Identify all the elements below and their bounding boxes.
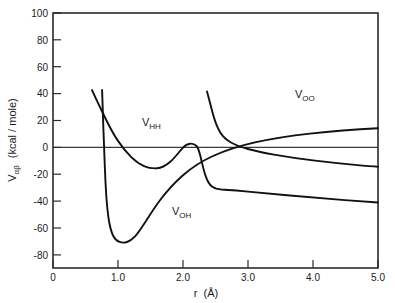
y-tick-label: -40 <box>34 196 49 207</box>
y-axis-title: Vαβ(kcal / mole) <box>6 98 21 181</box>
x-axis-title: r(Å) <box>194 287 218 299</box>
curve-label-voh: VOH <box>172 205 192 220</box>
y-axis-title-subscript: αβ <box>12 165 21 175</box>
y-tick-label: 100 <box>31 8 48 19</box>
x-tick-label: 1.0 <box>111 272 125 283</box>
y-axis-ticks <box>53 13 61 255</box>
x-tick-label: 3.0 <box>241 272 255 283</box>
x-tick-label: 4.0 <box>306 272 320 283</box>
y-axis-title-unit: (kcal / mole) <box>6 98 18 158</box>
curve-label-vhh-subscript: HH <box>149 122 161 131</box>
y-tick-labels: 100 80 60 40 20 0 -20 -40 -60 -80 <box>31 8 48 261</box>
y-tick-label: 20 <box>37 115 49 126</box>
curve-label-voo-subscript: OO <box>302 94 314 103</box>
curve-label-voo: VOO <box>295 88 315 103</box>
y-tick-label: -60 <box>34 223 49 234</box>
x-tick-label: 5.0 <box>371 272 385 283</box>
y-tick-label: 80 <box>37 35 49 46</box>
curve-label-vhh: VHH <box>142 116 161 131</box>
y-tick-label: 60 <box>37 62 49 73</box>
x-tick-label: 0 <box>50 272 56 283</box>
x-tick-labels: 0 1.0 2.0 3.0 4.0 5.0 <box>50 272 385 283</box>
y-tick-label: -20 <box>34 169 49 180</box>
x-axis-title-unit: (Å) <box>204 287 219 299</box>
x-axis-ticks <box>53 260 378 268</box>
plot-frame <box>53 13 378 268</box>
svg-text:Vαβ(kcal / mole): Vαβ(kcal / mole) <box>6 98 21 181</box>
curve-vhh <box>92 90 378 202</box>
y-tick-label: -80 <box>34 250 49 261</box>
x-tick-label: 2.0 <box>176 272 190 283</box>
figure-container: 100 80 60 40 20 0 -20 -40 -60 -80 0 1.0 … <box>0 0 395 303</box>
y-tick-label: 0 <box>42 142 48 153</box>
y-tick-label: 40 <box>37 88 49 99</box>
curve-label-voh-subscript: OH <box>179 211 191 220</box>
potential-energy-chart: 100 80 60 40 20 0 -20 -40 -60 -80 0 1.0 … <box>0 0 395 303</box>
svg-text:r(Å): r(Å) <box>194 287 218 299</box>
x-axis-title-symbol: r <box>194 287 198 299</box>
